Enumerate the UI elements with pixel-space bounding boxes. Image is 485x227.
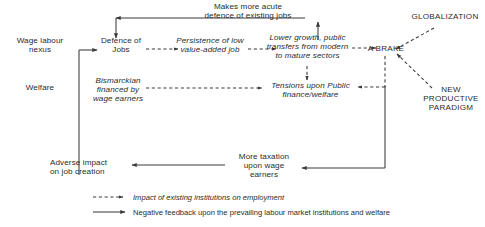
node-a-brake: A BRAKE bbox=[366, 44, 406, 53]
node-defence-of-jobs: Defence of Jobs bbox=[95, 36, 147, 54]
legend-label-dashed: Impact of existing institutions on emplo… bbox=[133, 193, 284, 202]
edge-paradigm-to-brake bbox=[397, 54, 432, 88]
node-persistence-low-value: Persistence of low value-added job bbox=[168, 36, 252, 54]
node-lower-growth: Lower growth, public transfers from mode… bbox=[259, 33, 356, 60]
node-bismarckian: Bismarckian financed by wage earners bbox=[86, 76, 150, 103]
legend-label-solid: Negative feedback upon the prevailing la… bbox=[133, 208, 390, 217]
node-adverse-impact: Adverse impact on job creation bbox=[50, 158, 132, 176]
node-globalization: GLOBALIZATION bbox=[406, 12, 484, 21]
node-makes-more-acute: Makes more acute defence of existing job… bbox=[188, 2, 308, 20]
node-more-taxation: More taxation upon wage earners bbox=[228, 152, 300, 179]
node-welfare: Welfare bbox=[4, 83, 76, 92]
node-wage-labour-nexus: Wage labour nexus bbox=[4, 36, 76, 54]
diagram-canvas: Wage labour nexus Welfare Defence of Job… bbox=[0, 0, 485, 227]
node-tensions-public-finance: Tensions upon Public finance/welfare bbox=[262, 81, 359, 99]
node-new-productive-paradigm: NEW PRODUCTIVE PARADIGM bbox=[420, 85, 482, 112]
